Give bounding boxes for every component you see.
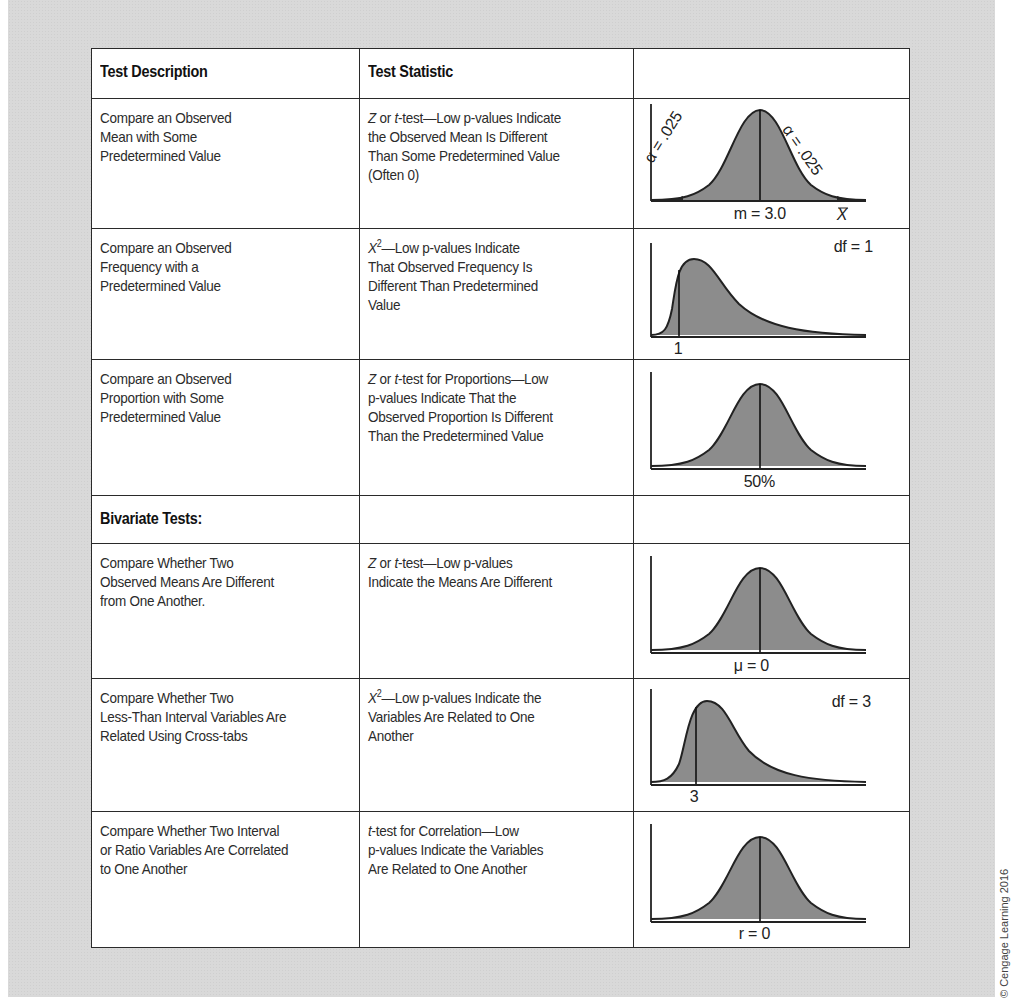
statistic-cell: Z or t-test—Low p-values Indicate the Ob… [360, 99, 633, 229]
normal-curve-correlation: r = 0 [634, 812, 909, 946]
center-label: r = 0 [739, 924, 770, 943]
header-graph [633, 49, 909, 99]
graph-cell: 50% [633, 360, 909, 496]
table-row: Compare an Observed Proportion with Some… [92, 360, 910, 496]
graph-cell: 3 df = 3 [633, 679, 909, 812]
graph-cell: 1 df = 1 [633, 229, 909, 360]
table-header-row: Test Description Test Statistic [92, 49, 910, 99]
table-row: Compare Whether Two Less-Than Interval V… [92, 679, 910, 812]
statistic-line: Z or t-test for Proportions—Low [368, 369, 638, 388]
statistic-line: t-test for Correlation—Low [368, 821, 638, 840]
table-row: Compare Whether Two Observed Means Are D… [92, 544, 910, 679]
description-cell: Compare an Observed Frequency with a Pre… [92, 229, 360, 360]
header-test-statistic: Test Statistic [360, 49, 633, 99]
table-row: Compare an Observed Frequency with a Pre… [92, 229, 910, 360]
chi-square-curve-df1: 1 df = 1 [634, 229, 909, 358]
df-label: df = 3 [832, 692, 871, 711]
description-cell: Compare an Observed Mean with Some Prede… [92, 99, 360, 229]
chi-square-curve-df3: 3 df = 3 [634, 679, 909, 810]
empty-cell [633, 496, 909, 544]
center-label: 50% [744, 472, 775, 491]
statistic-cell: X2—Low p-values Indicate the Variables A… [360, 679, 633, 812]
graph-cell: α = .025 α = .025 m = 3.0 X [633, 99, 909, 229]
table-row: Compare Whether Two Interval or Ratio Va… [92, 812, 910, 948]
description-cell: Compare Whether Two Interval or Ratio Va… [92, 812, 360, 948]
statistic-line: X2—Low p-values Indicate [368, 238, 638, 257]
marker-label: 3 [690, 787, 699, 806]
graph-cell: r = 0 [633, 812, 909, 948]
statistic-cell: Z or t-test—Low p-values Indicate the Me… [360, 544, 633, 679]
section-heading-row: Bivariate Tests: [92, 496, 910, 544]
normal-curve-means: μ = 0 [634, 544, 909, 677]
statistic-cell: t-test for Correlation—Low p-values Indi… [360, 812, 633, 948]
center-label: μ = 0 [734, 656, 769, 675]
df-label: df = 1 [834, 237, 873, 256]
normal-curve-proportion: 50% [634, 360, 909, 494]
statistic-line: X2—Low p-values Indicate the [368, 688, 638, 707]
center-label: m = 3.0 [734, 204, 786, 223]
copyright-notice: © Cengage Learning 2016 [998, 869, 1010, 998]
statistic-line: Z or t-test—Low p-values Indicate [368, 108, 638, 127]
header-test-description: Test Description [92, 49, 360, 99]
statistic-cell: Z or t-test for Proportions—Low p-values… [360, 360, 633, 496]
description-cell: Compare Whether Two Less-Than Interval V… [92, 679, 360, 812]
normal-two-tailed-curve: α = .025 α = .025 m = 3.0 X [634, 99, 909, 227]
bivariate-tests-heading: Bivariate Tests: [100, 509, 365, 528]
description-cell: Compare Whether Two Observed Means Are D… [92, 544, 360, 679]
statistic-line: Z or t-test—Low p-values [368, 553, 638, 572]
section-heading-cell: Bivariate Tests: [92, 496, 360, 544]
graph-cell: μ = 0 [633, 544, 909, 679]
marker-label: 1 [674, 339, 683, 358]
description-cell: Compare an Observed Proportion with Some… [92, 360, 360, 496]
empty-cell [360, 496, 633, 544]
statistical-tests-table: Test Description Test Statistic Compare … [91, 48, 910, 948]
axis-label: X [837, 205, 847, 224]
table-row: Compare an Observed Mean with Some Prede… [92, 99, 910, 229]
statistic-cell: X2—Low p-values Indicate That Observed F… [360, 229, 633, 360]
